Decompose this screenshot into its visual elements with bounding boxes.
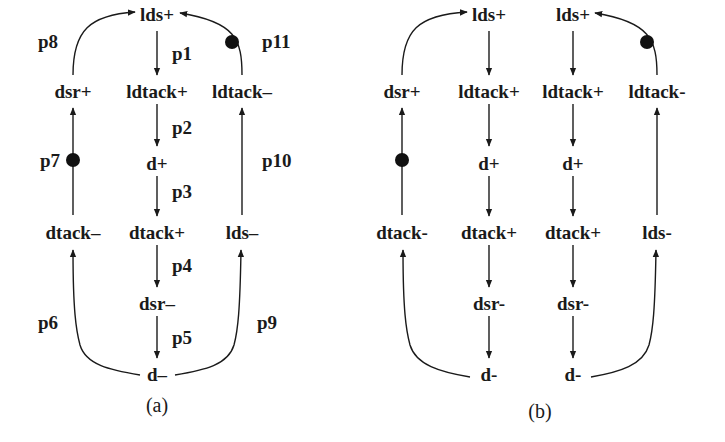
token-p7 xyxy=(66,153,80,167)
node-lds-plus: lds+ xyxy=(140,4,174,25)
node-d-plus: d+ xyxy=(146,153,167,174)
place-label-p9: p9 xyxy=(257,312,277,333)
arc-b-d-to-dtack xyxy=(403,250,470,377)
node-b-c1-lds-plus: lds+ xyxy=(472,4,506,25)
node-ldtack-minus: ldtack– xyxy=(212,81,273,102)
node-b-c2-ldtack-plus: ldtack+ xyxy=(542,81,604,102)
node-d-minus: d– xyxy=(147,364,168,385)
node-b-c2-d-plus: d+ xyxy=(562,153,583,174)
node-b-c2-d-minus: d- xyxy=(565,364,582,385)
place-label-p2: p2 xyxy=(172,117,192,138)
arc-p6 xyxy=(73,250,140,375)
petri-net-figure: lds+ ldtack+ d+ dtack+ dsr– d– dsr+ dtac… xyxy=(0,0,725,442)
place-label-p8: p8 xyxy=(38,31,58,52)
node-b-c1-d-minus: d- xyxy=(481,364,498,385)
node-b-c2-dsr-minus: dsr- xyxy=(557,293,589,314)
place-label-p3: p3 xyxy=(172,181,192,202)
node-b-lds-minus: lds- xyxy=(642,222,672,243)
node-ldtack-plus: ldtack+ xyxy=(126,81,188,102)
node-b-dsr-plus: dsr+ xyxy=(383,81,420,102)
node-b-ldtack-minus: ldtack- xyxy=(629,81,686,102)
token-b-right xyxy=(640,35,654,49)
panel-b: dsr+ dtack- lds+ ldtack+ d+ dtack+ dsr- … xyxy=(376,4,685,423)
place-label-p5: p5 xyxy=(172,327,192,348)
node-b-c2-dtack-plus: dtack+ xyxy=(545,222,601,243)
node-lds-minus: lds– xyxy=(226,222,259,243)
place-label-p7: p7 xyxy=(40,150,61,171)
node-b-c1-ldtack-plus: ldtack+ xyxy=(458,81,520,102)
node-b-dtack-minus: dtack- xyxy=(376,222,428,243)
arc-b-d-to-lds xyxy=(591,250,656,377)
node-b-c1-dsr-minus: dsr- xyxy=(473,293,505,314)
node-dtack-minus: dtack– xyxy=(46,222,101,243)
token-b-left xyxy=(395,153,409,167)
token-p11 xyxy=(225,35,239,49)
node-b-c1-d-plus: d+ xyxy=(478,153,499,174)
node-b-c1-dtack-plus: dtack+ xyxy=(461,222,517,243)
place-label-p4: p4 xyxy=(172,255,193,276)
arc-b-dsr-to-lds xyxy=(402,12,467,75)
place-label-p6: p6 xyxy=(38,312,58,333)
node-dtack-plus: dtack+ xyxy=(129,222,185,243)
node-dsr-minus: dsr– xyxy=(139,293,175,314)
place-label-p11: p11 xyxy=(262,31,291,52)
panel-a: lds+ ldtack+ d+ dtack+ dsr– d– dsr+ dtac… xyxy=(38,4,292,417)
place-label-p10: p10 xyxy=(262,150,292,171)
arc-p8 xyxy=(73,12,135,75)
caption-b: (b) xyxy=(528,400,551,423)
place-label-p1: p1 xyxy=(172,43,192,64)
caption-a: (a) xyxy=(146,394,168,417)
node-b-c2-lds-plus: lds+ xyxy=(556,4,590,25)
node-dsr-plus: dsr+ xyxy=(54,81,91,102)
